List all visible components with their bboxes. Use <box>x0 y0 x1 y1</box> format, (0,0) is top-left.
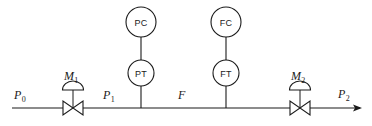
valve-m2-label: M2 <box>291 70 305 82</box>
valve-m2-subscript: 2 <box>301 76 305 85</box>
inlet-pressure-symbol: P <box>14 88 21 102</box>
outlet-pressure-subscript: 2 <box>346 94 350 103</box>
flow-transmitter-label: FT <box>220 69 232 79</box>
valve-m2-symbol: M <box>291 69 301 83</box>
valve-m1-label: M1 <box>64 70 78 82</box>
outlet-pressure-symbol: P <box>338 87 345 101</box>
flow-controller-label: FC <box>220 18 233 28</box>
inlet-pressure-label: P0 <box>14 89 25 101</box>
process-diagram: PT PC FT FC P0 P1 F P2 M1 M2 <box>0 0 372 126</box>
pressure-controller-label: PC <box>135 18 148 28</box>
valve-m1-symbol: M <box>64 69 74 83</box>
inlet-pressure-subscript: 0 <box>22 95 26 104</box>
outlet-pressure-label: P2 <box>338 88 349 100</box>
intermediate-pressure-subscript: 1 <box>111 95 115 104</box>
valve-m1-subscript: 1 <box>74 76 78 85</box>
intermediate-pressure-label: P1 <box>103 89 114 101</box>
flow-rate-label: F <box>178 89 185 101</box>
intermediate-pressure-symbol: P <box>103 88 110 102</box>
diagram-canvas: PT PC FT FC <box>0 0 372 126</box>
pressure-transmitter-label: PT <box>135 69 147 79</box>
